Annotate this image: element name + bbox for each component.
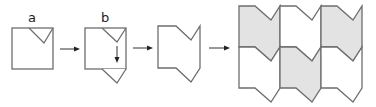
step-b: b xyxy=(85,10,126,83)
step-b-label: b xyxy=(101,10,109,25)
tessellation-grid xyxy=(239,6,362,102)
tessellation-diagram: a b xyxy=(0,0,376,107)
step-a: a xyxy=(12,10,53,69)
arrow-1 xyxy=(60,47,80,52)
step-a-label: a xyxy=(28,10,36,25)
arrow-2 xyxy=(133,46,153,51)
step-c-tile xyxy=(158,26,200,82)
step-a-square xyxy=(12,28,53,69)
step-b-square xyxy=(85,28,126,69)
step-b-moved-notch xyxy=(102,69,126,83)
arrow-3 xyxy=(209,46,230,51)
